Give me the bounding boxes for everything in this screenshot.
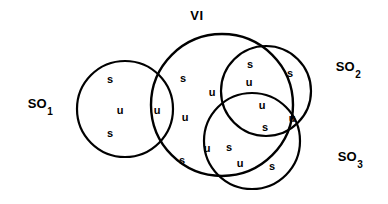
letter-triple-upper: u: [259, 100, 266, 111]
letter-vi-so2-upper: s: [247, 59, 253, 70]
so3-label: SO3: [338, 148, 363, 167]
letter-triple-lower: s: [262, 122, 268, 133]
letter-vi-lower-left: s: [179, 155, 185, 166]
letter-so3-mid: u: [237, 158, 244, 169]
letter-so2-right: s: [287, 68, 293, 79]
so3-label-subscript: 3: [357, 160, 363, 171]
letter-vi-center-left: u: [209, 87, 216, 98]
vi-title-label: VI: [190, 9, 203, 22]
letter-so1-mid: u: [117, 105, 124, 116]
so1-label-subscript: 1: [47, 107, 53, 118]
so2-label: SO2: [336, 58, 361, 77]
so1-label: SO1: [28, 95, 53, 114]
venn-diagram: VI SO1 SO2 SO3 s u s u s u s u s u s u s…: [0, 0, 388, 204]
letter-vi-upper-left: s: [180, 73, 186, 84]
so3-circle: [204, 93, 300, 189]
so2-label-subscript: 2: [355, 70, 361, 81]
letter-vi-mid-left: u: [182, 112, 189, 123]
letter-vi-so2-lower: u: [246, 77, 253, 88]
letter-so1-upper: s: [107, 74, 113, 85]
letter-so1-vi-overlap: u: [154, 105, 161, 116]
letter-so2-so3-right: u: [289, 113, 296, 124]
letter-so3-right: s: [269, 161, 275, 172]
so3-label-base: SO: [338, 149, 357, 164]
letter-so1-lower: s: [107, 128, 113, 139]
letter-vi-so3-s: s: [226, 142, 232, 153]
so1-label-base: SO: [28, 96, 47, 111]
so2-label-base: SO: [336, 59, 355, 74]
venn-circles-canvas: [0, 0, 388, 204]
letter-vi-so3-u: u: [204, 143, 211, 154]
